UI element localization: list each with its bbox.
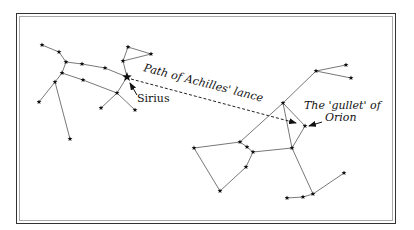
- constellation-line: [292, 148, 313, 194]
- constellation-line: [62, 73, 83, 80]
- constellation-line: [66, 62, 82, 64]
- constellation-line: [283, 103, 305, 126]
- star-icon: [103, 65, 108, 70]
- constellation-line: [82, 64, 105, 68]
- constellation-line: [128, 47, 151, 54]
- star-icon: [81, 77, 86, 82]
- star-icon: [126, 44, 131, 49]
- constellation-stars: [37, 42, 354, 200]
- star-icon: [349, 75, 354, 80]
- constellation-line: [42, 45, 59, 52]
- star-icon: [285, 195, 290, 200]
- star-icon: [301, 194, 306, 199]
- star-icon: [60, 70, 65, 75]
- constellation-line: [55, 82, 70, 139]
- sirius-star-icon: [122, 72, 132, 81]
- constellation-line: [316, 65, 346, 71]
- star-icon: [57, 49, 62, 54]
- constellation-line: [39, 82, 55, 102]
- constellation-lines: [39, 45, 351, 198]
- constellation-line: [316, 71, 351, 78]
- constellation-line: [313, 173, 344, 194]
- constellation-line: [287, 197, 303, 198]
- star-icon: [192, 145, 197, 150]
- constellation-line: [117, 93, 135, 110]
- constellation-line: [253, 148, 292, 152]
- star-icon: [290, 145, 295, 150]
- star-chart: Path of Achilles' lance Sirius The 'gull…: [0, 0, 414, 230]
- star-icon: [149, 51, 154, 56]
- constellation-line: [123, 47, 128, 61]
- constellation-line: [62, 62, 66, 73]
- constellation-line: [194, 142, 240, 148]
- constellation-line: [283, 103, 292, 148]
- constellation-line: [194, 148, 220, 191]
- constellation-line: [240, 103, 283, 142]
- constellation-line: [292, 126, 305, 148]
- sirius-label: Sirius: [137, 92, 170, 105]
- star-icon: [80, 61, 85, 66]
- star-icon: [344, 62, 349, 67]
- star-icon: [68, 136, 73, 141]
- constellation-line: [83, 80, 117, 93]
- star-icon: [40, 42, 45, 47]
- gullet-label-line2: Orion: [325, 111, 357, 124]
- sirius-pointer-arrow: [130, 83, 137, 95]
- constellation-line: [123, 54, 151, 61]
- gullet-pointer-arrow: [309, 122, 322, 126]
- constellation-line: [220, 167, 246, 191]
- constellation-line: [101, 93, 117, 108]
- star-icon: [311, 191, 316, 196]
- constellation-line: [246, 152, 253, 167]
